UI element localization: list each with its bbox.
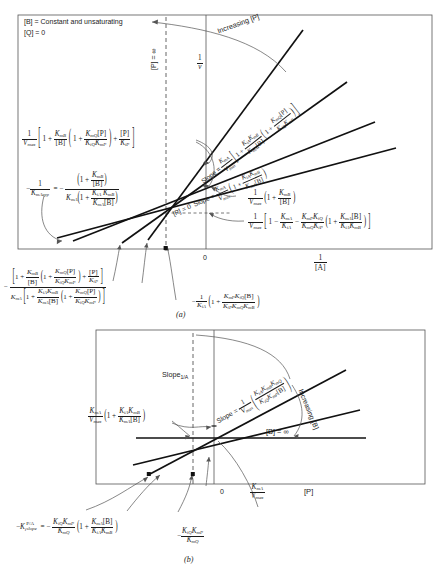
- panel-a-bottom-arrow-1: [113, 245, 120, 281]
- panel-b-y-axis-label: Slope1/A: [162, 370, 188, 380]
- panel-b-left-intercept-label: KmAVmax (1 + KiAKmBKmA[B] ): [88, 408, 145, 425]
- panel-a-x-axis-label: 1[A]: [314, 254, 327, 271]
- panel-a-xintercept-arrowhead: [57, 240, 62, 245]
- panel-b-slope-arrow: [196, 335, 290, 379]
- panel-a-condition-b: [B] = Constant and unsaturating: [24, 18, 123, 25]
- panel-a-upper-intercept-label: 1Vmax (1 + KmB[B] ): [248, 190, 295, 207]
- panel-b-left-arrow-2: [172, 423, 211, 427]
- panel-a-origin-label: 0: [203, 254, 207, 261]
- panel-b-foot-2: [191, 472, 195, 476]
- panel-b-bottom-arrowhead-1: [143, 477, 148, 482]
- panel-b-infinity-label: [B] = ∞: [266, 427, 289, 436]
- panel-a-caption: (a): [176, 311, 185, 319]
- panel-b-bottom-arrow-1: [86, 477, 148, 510]
- panel-b-caption: (b): [184, 556, 193, 564]
- panel-a-bottom-arrowhead-2: [144, 243, 148, 248]
- panel-a-right-arrow-2: [209, 213, 244, 221]
- panel-b-bottom-arrow-2: [127, 475, 160, 511]
- panel-b-x-axis-label: [P]: [304, 487, 313, 496]
- panel-a-condition-arrowhead: [152, 19, 158, 24]
- panel-a-y-axis-label: 1v: [197, 55, 203, 71]
- panel-a-condition-q: [Q] = 0: [24, 29, 45, 36]
- panel-b-left-arrow-1: [172, 421, 190, 436]
- panel-b-ki-slope-expression: −Ki P/Aslope = − KiQKmPKmQ (1 + KmA[B]Ki…: [16, 519, 118, 536]
- panel-b-left-arrowhead-2: [206, 425, 211, 430]
- panel-a-intercept-expression: 1Vmax [ 1 + KmB[B] ( 1 + KmQ[P]KiQKmP ) …: [22, 131, 134, 148]
- panel-a-zero-label: [P] = 0: [172, 203, 192, 217]
- panel-b-graphics: [0, 325, 441, 575]
- panel-b-foot-1: [147, 472, 151, 476]
- panel-b-origin-label: 0: [220, 488, 224, 495]
- panel-a-right-arrowhead-2: [209, 213, 214, 218]
- panel-a-bottom-arrowhead-1: [117, 245, 121, 250]
- panel-a-bottom-right-expression: −1KiA (1 + KmPKiQ[B]KiPKmQKmB ): [192, 293, 259, 311]
- panel-b-y-axis-label-text: Slope: [162, 370, 180, 379]
- panel-b-y-axis-label-sub: 1/A: [180, 374, 188, 380]
- panel-a-bottom-arrow-3: [167, 246, 176, 300]
- panel-a-asymptote-label: [P] = ∞: [150, 48, 157, 70]
- panel-a-crossover-label: 1Vmax [ 1 − KmAKiA − KmPKiQKmQKiP (1 + K…: [248, 214, 370, 231]
- panel-a-bottom-left-expression: − [1 + KmB[B] (1 + KmQ[P]KiQKmP ) + [P]K…: [4, 268, 106, 306]
- panel-a-x-intercept-expression: −1KmAapp = − (1 + KmB[B]) KmA(1 + KiA Km…: [26, 172, 119, 207]
- panel-b-bottom-arrow-3: [178, 475, 192, 512]
- panel-b-y-intercept-label: KmAVmax: [250, 484, 265, 501]
- panel-a-asymptote-foot: [164, 246, 168, 250]
- panel-b-origin-arrowhead: [206, 457, 211, 462]
- panel-b-bottom-arrowhead-2: [155, 475, 160, 481]
- kinetics-figure: [B] = Constant and unsaturating [Q] = 0 …: [0, 0, 441, 575]
- panel-b-ki-simple-expression: −KiQKmPKmQ: [177, 528, 204, 545]
